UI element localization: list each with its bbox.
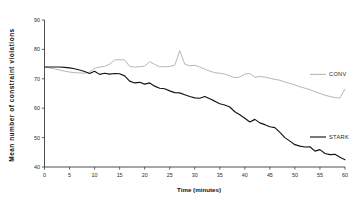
x-tick-label: 5 (68, 172, 71, 178)
y-tick-label: 90 (34, 17, 40, 23)
x-tick-label: 15 (117, 172, 123, 178)
x-tick-label: 20 (142, 172, 148, 178)
x-tick-label: 45 (267, 172, 273, 178)
y-axis-title: Mean number of constraint violations (8, 28, 15, 161)
y-tick-label: 80 (34, 46, 40, 52)
y-tick-label: 70 (34, 76, 40, 82)
x-tick-label: 50 (292, 172, 298, 178)
legend-label-stark: STARK (329, 134, 349, 140)
y-tick-label: 40 (34, 164, 40, 170)
axes-layer (45, 20, 346, 167)
series-line-conv (45, 51, 346, 98)
x-tick-label: 55 (317, 172, 323, 178)
y-tick-label: 60 (34, 105, 40, 111)
y-tick-label: 50 (34, 135, 40, 141)
x-tick-label: 10 (92, 172, 98, 178)
data-series-layer (45, 51, 346, 160)
x-tick-label: 40 (242, 172, 248, 178)
tick-marks-layer (42, 20, 345, 170)
legend-label-conv: CONV (329, 71, 347, 77)
x-tick-label: 25 (167, 172, 173, 178)
series-line-stark (45, 67, 346, 160)
legend-layer: CONVSTARK (310, 71, 349, 140)
x-tick-label: 35 (217, 172, 223, 178)
x-axis-title: Time (minutes) (177, 186, 221, 193)
x-tick-label: 0 (43, 172, 46, 178)
x-tick-label: 60 (342, 172, 348, 178)
chart-figure: 405060708090051015202530354045505560 CON… (0, 0, 363, 198)
line-chart-canvas: 405060708090051015202530354045505560 CON… (0, 0, 363, 198)
x-tick-label: 30 (192, 172, 198, 178)
